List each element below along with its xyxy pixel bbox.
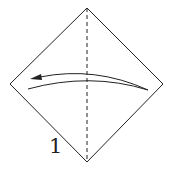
origami-diagram (0, 0, 179, 170)
step-number: 1 (49, 136, 62, 157)
fold-arrow-icon (28, 74, 148, 90)
